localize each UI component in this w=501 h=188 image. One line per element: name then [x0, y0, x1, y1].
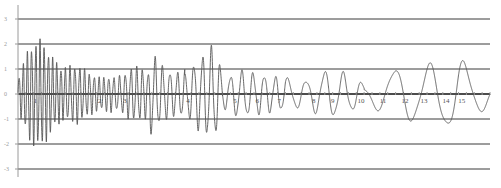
x-tick-label: 11 — [380, 97, 387, 105]
x-tick-label: 8 — [312, 97, 316, 105]
y-tick-label: 0 — [4, 91, 7, 97]
waveform-chart: 3210-1-2-3 123456789101112131415 — [0, 0, 501, 188]
x-tick-label: 10 — [357, 97, 365, 105]
y-tick-label: -2 — [4, 141, 9, 147]
y-tick-label: 1 — [4, 66, 7, 72]
x-tick-label: 7 — [277, 97, 281, 105]
x-tick-label: 6 — [255, 97, 259, 105]
y-tick-labels: 3210-1-2-3 — [4, 16, 9, 172]
x-tick-label: 2 — [98, 97, 102, 105]
y-tick-label: 3 — [4, 16, 7, 22]
x-tick-label: 9 — [331, 97, 335, 105]
x-tick-label: 13 — [420, 97, 428, 105]
x-tick-label: 4 — [186, 97, 190, 105]
x-tick-label: 1 — [34, 97, 38, 105]
x-tick-label: 3 — [123, 97, 127, 105]
axes — [15, 5, 490, 177]
y-tick-label: -3 — [4, 166, 9, 172]
y-tick-label: -1 — [4, 116, 9, 122]
x-tick-label: 15 — [458, 97, 466, 105]
y-tick-label: 2 — [4, 41, 7, 47]
x-tick-label: 5 — [233, 97, 237, 105]
x-tick-label: 12 — [402, 97, 410, 105]
x-tick-label: 14 — [442, 97, 450, 105]
